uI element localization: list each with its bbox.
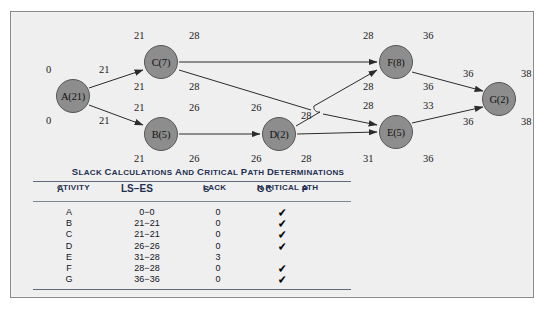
cell-activity: B bbox=[57, 218, 81, 228]
table-rule-header bbox=[33, 201, 351, 202]
edge-d-e bbox=[297, 132, 377, 134]
node-c-label: C(7) bbox=[152, 57, 170, 68]
slack-table: SLACK CALCULATIONS AND CRITICAL PATH DET… bbox=[33, 162, 373, 297]
time-label-f-ls: 28 bbox=[363, 81, 374, 92]
cell-on-critical-path: ✔ bbox=[257, 274, 307, 285]
table-title: SLACK CALCULATIONS AND CRITICAL PATH DET… bbox=[63, 166, 353, 177]
time-label-f-ef: 36 bbox=[423, 30, 434, 41]
time-label-d-ls: 26 bbox=[251, 153, 262, 164]
time-label-c-es: 21 bbox=[134, 30, 145, 41]
node-b-label: B(5) bbox=[152, 129, 170, 140]
time-label-b-ls: 21 bbox=[134, 153, 145, 164]
node-f[interactable]: F(8) bbox=[379, 45, 413, 79]
cell-ls-es: 26−26 bbox=[117, 241, 177, 251]
time-label-e-ls: 31 bbox=[363, 153, 374, 164]
table-header-row: ACTIVITY LS−ES SLACK ON CRITICAL PATH bbox=[33, 183, 351, 199]
cell-slack: 3 bbox=[201, 252, 235, 262]
cell-slack: 0 bbox=[201, 263, 235, 273]
table-row[interactable]: F 28−28 0 ✔ bbox=[33, 263, 351, 274]
figure-frame: A(21) C(7) B(5) D(2) F(8) E(5) G(2) 0 21 bbox=[10, 11, 534, 298]
node-d-label: D(2) bbox=[269, 129, 288, 140]
time-label-g-ef: 38 bbox=[521, 68, 532, 79]
cell-ls-es: 21−21 bbox=[117, 218, 177, 228]
table-body: A 0−0 0 ✔ B 21−21 0 ✔ C 21−21 0 ✔ bbox=[33, 207, 351, 285]
cell-ls-es: 21−21 bbox=[117, 229, 177, 239]
time-label-d-es: 26 bbox=[251, 102, 262, 113]
time-label-a-ef: 21 bbox=[99, 64, 110, 75]
cell-ls-es: 36−36 bbox=[117, 274, 177, 284]
table-row[interactable]: C 21−21 0 ✔ bbox=[33, 229, 351, 240]
node-g-label: G(2) bbox=[489, 94, 508, 105]
cell-ls-es: 28−28 bbox=[117, 263, 177, 273]
time-label-b-ef: 26 bbox=[189, 102, 200, 113]
table-rule-bottom bbox=[33, 289, 351, 290]
time-label-d-lf: 28 bbox=[301, 153, 312, 164]
time-label-e-ef: 33 bbox=[423, 100, 434, 111]
cell-activity: D bbox=[57, 241, 81, 251]
time-label-c-lf: 28 bbox=[189, 81, 200, 92]
node-e-label: E(5) bbox=[387, 127, 405, 138]
node-b[interactable]: B(5) bbox=[144, 117, 178, 151]
node-d[interactable]: D(2) bbox=[262, 117, 296, 151]
time-label-b-lf: 26 bbox=[189, 153, 200, 164]
cell-slack: 0 bbox=[201, 218, 235, 228]
time-label-f-lf: 36 bbox=[423, 81, 434, 92]
time-label-f-es: 28 bbox=[363, 30, 374, 41]
table-rule-top bbox=[33, 181, 351, 182]
figure-canvas: A(21) C(7) B(5) D(2) F(8) E(5) G(2) 0 21 bbox=[0, 0, 544, 310]
table-row[interactable]: G 36−36 0 ✔ bbox=[33, 274, 351, 285]
node-f-label: F(8) bbox=[387, 57, 404, 68]
time-label-g-es: 36 bbox=[463, 68, 474, 79]
time-label-e-es: 28 bbox=[363, 100, 374, 111]
table-row[interactable]: E 31−28 3 bbox=[33, 252, 351, 263]
time-label-a-lf: 21 bbox=[99, 115, 110, 126]
cell-on-critical-path: ✔ bbox=[257, 241, 307, 252]
cell-slack: 0 bbox=[201, 274, 235, 284]
time-label-b-es: 21 bbox=[134, 102, 145, 113]
time-label-g-ls: 36 bbox=[463, 116, 474, 127]
check-icon: ✔ bbox=[277, 273, 286, 286]
col-header-slack: SLACK bbox=[203, 183, 226, 192]
time-label-g-lf: 38 bbox=[521, 116, 532, 127]
cell-slack: 0 bbox=[201, 207, 235, 217]
time-label-e-lf: 36 bbox=[423, 153, 434, 164]
col-header-activity: ACTIVITY bbox=[57, 183, 90, 192]
cell-activity: E bbox=[57, 252, 81, 262]
cell-activity: F bbox=[57, 263, 81, 273]
node-a[interactable]: A(21) bbox=[56, 79, 90, 113]
cell-activity: A bbox=[57, 207, 81, 217]
check-icon: ✔ bbox=[277, 240, 286, 253]
time-label-a-es: 0 bbox=[46, 64, 51, 75]
table-row[interactable]: D 26−26 0 ✔ bbox=[33, 241, 351, 252]
cell-slack: 0 bbox=[201, 241, 235, 251]
cell-activity: C bbox=[57, 229, 81, 239]
table-row[interactable]: B 21−21 0 ✔ bbox=[33, 218, 351, 229]
time-label-c-ls: 21 bbox=[134, 81, 145, 92]
time-label-c-ef: 28 bbox=[189, 30, 200, 41]
time-label-a-ls: 0 bbox=[46, 115, 51, 126]
cell-on-critical-path: ✔ bbox=[257, 229, 307, 240]
cell-activity: G bbox=[57, 274, 81, 284]
col-header-on-critical-path: ON CRITICAL PATH bbox=[257, 183, 318, 192]
cell-slack: 0 bbox=[201, 229, 235, 239]
node-g[interactable]: G(2) bbox=[482, 82, 516, 116]
cell-ls-es: 31−28 bbox=[117, 252, 177, 262]
network-diagram: A(21) C(7) B(5) D(2) F(8) E(5) G(2) 0 21 bbox=[11, 12, 533, 162]
node-a-label: A(21) bbox=[61, 91, 85, 102]
table-row[interactable]: A 0−0 0 ✔ bbox=[33, 207, 351, 218]
node-c[interactable]: C(7) bbox=[144, 45, 178, 79]
cell-ls-es: 0−0 bbox=[117, 207, 177, 217]
node-e[interactable]: E(5) bbox=[379, 115, 413, 149]
time-label-d-ef: 28 bbox=[301, 110, 312, 121]
